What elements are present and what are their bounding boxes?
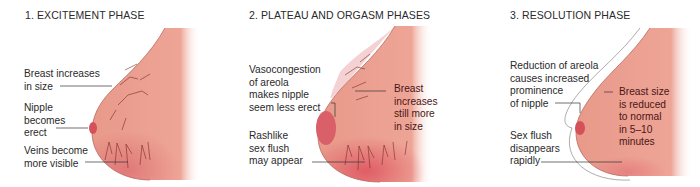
label-breast-increases: Breast increases still more in size: [394, 83, 438, 133]
panel-title: 1. EXCITEMENT PHASE: [25, 9, 145, 21]
panel-excitement: 1. EXCITEMENT PHASE Breast increases in …: [0, 0, 240, 187]
label-nipple-erect: Nipple becomes erect: [24, 102, 65, 140]
panel-title: 2. PLATEAU AND ORGASM PHASES: [249, 9, 430, 21]
label-sex-flush: Rashlike sex flush may appear: [249, 130, 303, 168]
label-breast-size: Breast increases in size: [24, 68, 100, 93]
panel-title: 3. RESOLUTION PHASE: [510, 9, 630, 21]
panel-plateau: 2. PLATEAU AND ORGASM PHASES Vasocongest…: [240, 0, 475, 187]
panel-resolution: 3. RESOLUTION PHASE Reduction of areola …: [470, 0, 700, 187]
label-vasocongestion: Vasocongestion of areola makes nipple se…: [249, 64, 321, 114]
label-veins: Veins become more visible: [24, 145, 88, 170]
label-areola-reduction: Reduction of areola causes increased pro…: [510, 60, 598, 110]
label-breast-reduced: Breast size is reduced to normal in 5–10…: [619, 86, 669, 149]
label-flush-disappears: Sex flush disappears rapidly: [510, 130, 560, 168]
